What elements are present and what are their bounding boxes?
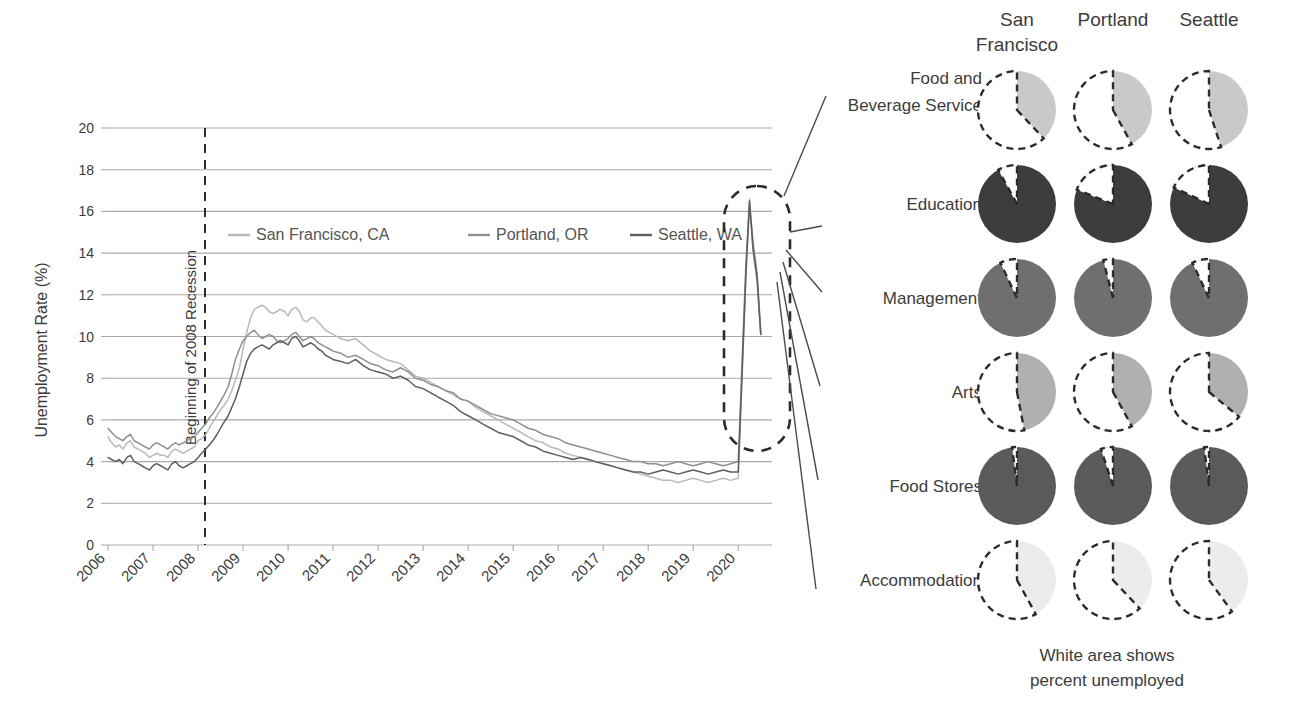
pie-2-2 [1074, 165, 1152, 243]
legend-label-3: Seattle, WA [658, 226, 742, 243]
pie-6-3 [1170, 541, 1248, 619]
y-tick-label: 0 [86, 537, 94, 553]
pie-5-2 [1074, 447, 1152, 525]
unemployment-figure: 02468101214161820 Unemployment Rate (%) … [0, 0, 1314, 706]
pie-row-label-3: Management [883, 289, 983, 308]
pie-column-header-1-line2: Francisco [976, 34, 1058, 55]
pie-row-label-1-line2: Beverage Service [848, 96, 982, 115]
pie-6-2 [1074, 541, 1152, 619]
pie-1-2 [1074, 71, 1152, 149]
pie-row-label-2: Education [906, 195, 982, 214]
legend-label-2: Portland, OR [496, 226, 588, 243]
y-tick-label: 6 [86, 412, 94, 428]
pie-column-header-3: Seattle [1179, 9, 1238, 30]
pie-2-1 [978, 165, 1056, 243]
pie-3-2 [1074, 259, 1152, 337]
pie-row-label-6: Accommodation [860, 571, 982, 590]
pie-1-3 [1170, 71, 1248, 149]
pie-3-1 [978, 259, 1056, 337]
pie-row-label-5: Food Stores [889, 477, 982, 496]
y-tick-label: 20 [78, 120, 94, 136]
y-tick-label: 4 [86, 454, 94, 470]
pie-6-1 [978, 541, 1056, 619]
y-tick-label: 2 [86, 495, 94, 511]
pie-row-label-1: Food and [910, 69, 982, 88]
pie-5-1 [978, 447, 1056, 525]
pie-column-header-2: Portland [1078, 9, 1149, 30]
pie-caption-line1: White area shows [1039, 646, 1174, 665]
pie-4-1 [978, 353, 1056, 431]
recession-label: Beginning of 2008 Recession [182, 250, 199, 445]
figure-root: 02468101214161820 Unemployment Rate (%) … [0, 0, 1314, 706]
pie-2-3 [1170, 165, 1248, 243]
y-tick-label: 18 [78, 162, 94, 178]
y-axis-title: Unemployment Rate (%) [33, 262, 50, 437]
pie-3-3 [1170, 259, 1248, 337]
y-tick-label: 14 [78, 245, 94, 261]
y-tick-label: 10 [78, 329, 94, 345]
pie-caption-line2: percent unemployed [1030, 671, 1184, 690]
pie-column-header-1: San [1000, 9, 1034, 30]
pie-5-3 [1170, 447, 1248, 525]
y-tick-label: 8 [86, 370, 94, 386]
pie-4-2 [1074, 353, 1152, 431]
pie-1-1 [978, 71, 1056, 149]
y-tick-label: 12 [78, 287, 94, 303]
pie-4-3 [1170, 353, 1248, 431]
y-tick-label: 16 [78, 203, 94, 219]
legend-label-1: San Francisco, CA [256, 226, 390, 243]
